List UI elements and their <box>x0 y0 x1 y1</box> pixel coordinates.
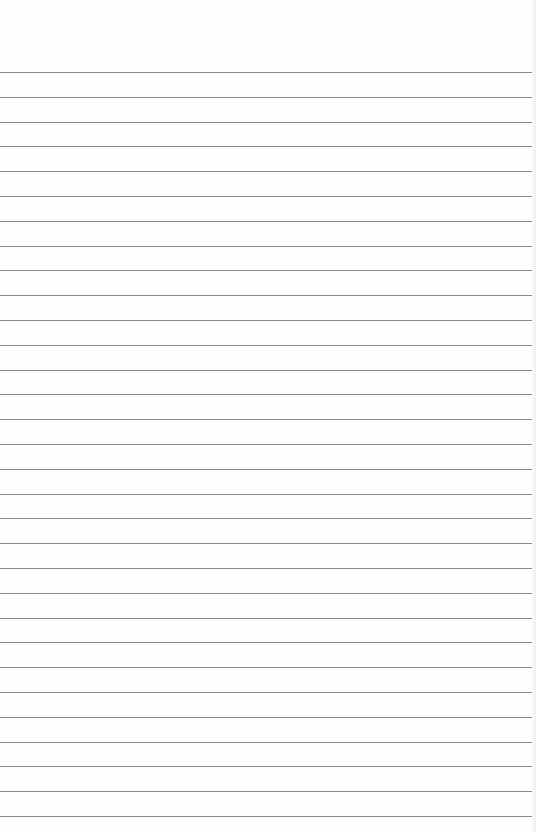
lined-paper-sheet <box>0 0 536 832</box>
ruled-line <box>0 742 532 743</box>
ruled-line <box>0 618 532 619</box>
ruled-line <box>0 122 532 123</box>
ruled-line <box>0 72 532 73</box>
ruled-line <box>0 593 532 594</box>
ruled-line <box>0 146 532 147</box>
ruled-line <box>0 221 532 222</box>
ruled-line <box>0 568 532 569</box>
ruled-line <box>0 370 532 371</box>
ruled-line <box>0 419 532 420</box>
ruled-line <box>0 394 532 395</box>
ruled-line <box>0 667 532 668</box>
ruled-line <box>0 518 532 519</box>
ruled-line <box>0 171 532 172</box>
ruled-line <box>0 97 532 98</box>
ruled-line <box>0 246 532 247</box>
ruled-line <box>0 196 532 197</box>
ruled-line <box>0 816 532 817</box>
ruled-line <box>0 295 532 296</box>
ruled-line <box>0 494 532 495</box>
ruled-line <box>0 692 532 693</box>
ruled-line <box>0 469 532 470</box>
ruled-line <box>0 320 532 321</box>
ruled-line <box>0 345 532 346</box>
ruled-line <box>0 766 532 767</box>
paper-edge-shadow <box>532 0 536 832</box>
ruled-line <box>0 642 532 643</box>
ruled-line <box>0 717 532 718</box>
ruled-line <box>0 270 532 271</box>
ruled-line <box>0 791 532 792</box>
ruled-line <box>0 543 532 544</box>
ruled-line <box>0 444 532 445</box>
